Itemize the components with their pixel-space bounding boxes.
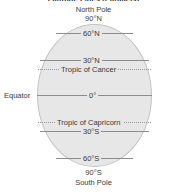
figure-title: Latitude Lines (Parallels) [0, 0, 187, 1]
latitude-0-label: 0° [87, 91, 98, 100]
latitude-30n-label: 30°N [81, 56, 102, 65]
latitude-90n-label: 90°N [0, 14, 187, 23]
latitude-lines-diagram: Latitude Lines (Parallels) North Pole 90… [0, 0, 187, 193]
latitude-30s-label: 30°S [81, 127, 101, 136]
latitude-60s-label: 60°S [81, 154, 101, 163]
equator-label: Equator [4, 91, 30, 100]
latitude-60n-label: 60°N [81, 29, 102, 38]
south-pole-label: South Pole [0, 178, 187, 187]
latitude-90s-label: 90°S [0, 168, 187, 177]
north-pole-label: North Pole [0, 5, 187, 14]
tropic-of-capricorn-label: Tropic of Capricorn [55, 118, 123, 127]
tropic-of-cancer-label: Tropic of Cancer [59, 65, 118, 74]
